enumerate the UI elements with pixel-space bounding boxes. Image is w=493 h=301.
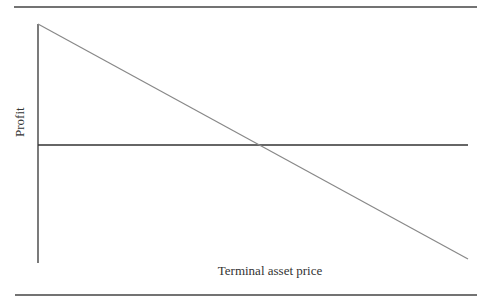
x-axis-label: Terminal asset price [200, 263, 340, 279]
chart-canvas [0, 0, 493, 301]
y-axis-label: Profit [12, 107, 28, 137]
payoff-line [38, 24, 468, 259]
